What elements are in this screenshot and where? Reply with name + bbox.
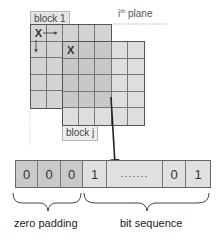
bit-cell-padding: 0: [16, 161, 38, 187]
bit-cell: 1: [83, 161, 107, 187]
bit-cell-ellipsis: ·······: [107, 161, 163, 187]
diagram-overlay: [0, 0, 221, 245]
zero-padding-caption: zero padding: [14, 217, 78, 229]
mapping-arrow: [111, 97, 115, 164]
bit-cell: 0: [163, 161, 186, 187]
bit-sequence-brace: [84, 193, 209, 211]
zero-padding-brace: [13, 193, 81, 211]
bit-cell-padding: 0: [38, 161, 61, 187]
bit-sequence-caption: bit sequence: [120, 217, 182, 229]
bit-cell-padding: 0: [61, 161, 83, 187]
bit-cell: 1: [186, 161, 210, 187]
bit-strip: 0 0 0 1 ······· 0 1: [15, 160, 211, 188]
